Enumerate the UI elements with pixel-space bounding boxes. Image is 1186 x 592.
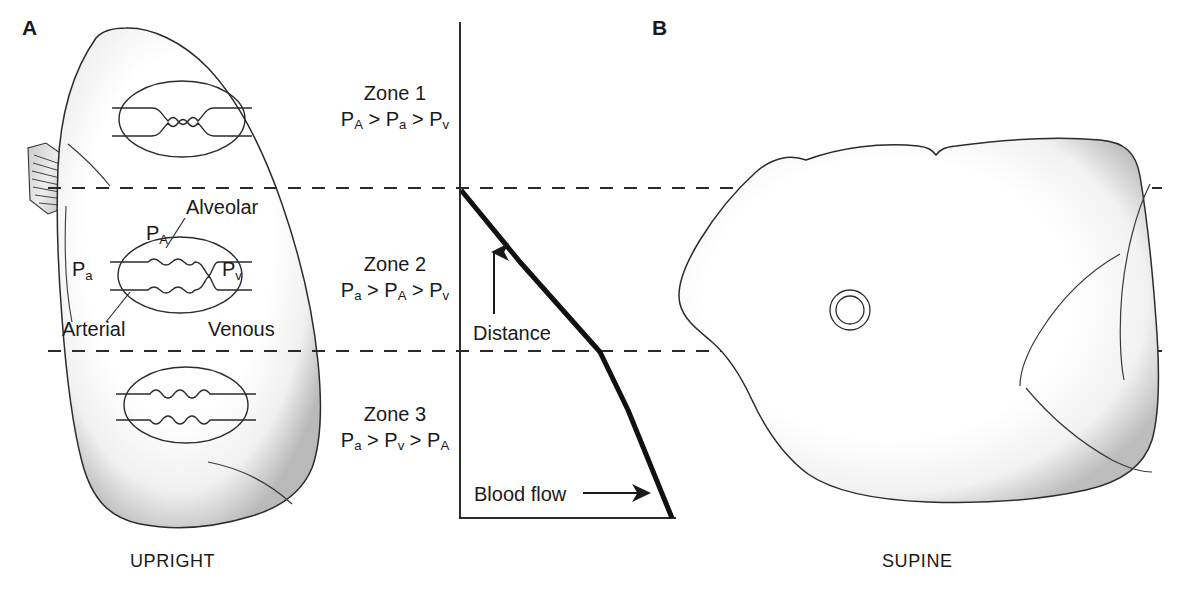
figure-vector-layer <box>0 0 1186 592</box>
panel-a-caption: UPRIGHT <box>130 551 215 572</box>
zone-3-label: Zone 3 Pa > Pv > PA <box>335 403 455 452</box>
upright-lung-outline <box>57 28 320 528</box>
zone-1-label: Zone 1 PA > Pa > Pv <box>335 82 455 131</box>
blood-flow-curve <box>461 190 672 518</box>
figure-root: A B Zone 1 PA > Pa > Pv Zone 2 Pa > PA >… <box>0 0 1186 592</box>
blood-flow-axis-label: Blood flow <box>474 483 566 507</box>
supine-lung-outline <box>679 138 1159 502</box>
arterial-label: Arterial <box>62 318 125 342</box>
alveolar-label: Alveolar <box>186 196 258 220</box>
panel-letter-a: A <box>22 16 38 41</box>
zone-2-label: Zone 2 Pa > PA > Pv <box>335 253 455 302</box>
alveolar-pressure-symbol: PA <box>146 222 168 246</box>
blood-flow-chart <box>460 22 676 519</box>
supine-lung-group <box>679 138 1159 502</box>
distance-axis-label: Distance <box>473 322 551 346</box>
panel-b-caption: SUPINE <box>882 551 953 572</box>
zone-1-equation: PA > Pa > Pv <box>335 108 455 132</box>
zone-2-title: Zone 2 <box>335 253 455 277</box>
arterial-pressure-symbol: Pa <box>72 258 93 282</box>
zone-1-title: Zone 1 <box>335 82 455 106</box>
zone-3-equation: Pa > Pv > PA <box>335 429 455 453</box>
venous-pressure-symbol: Pv <box>222 258 242 282</box>
zone-3-title: Zone 3 <box>335 403 455 427</box>
venous-label: Venous <box>208 318 275 342</box>
zone-2-equation: Pa > PA > Pv <box>335 279 455 303</box>
panel-letter-b: B <box>652 16 668 41</box>
